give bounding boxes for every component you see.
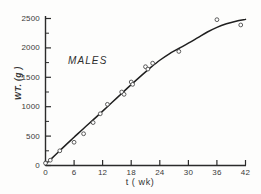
data-point [215, 18, 219, 22]
x-tick-label: 12 [93, 168, 113, 177]
data-point [48, 158, 52, 162]
y-axis-label: WT. (g ) [13, 53, 23, 113]
data-point-markers [44, 18, 243, 165]
x-tick-label: 42 [236, 168, 256, 177]
data-point [98, 112, 102, 116]
data-point [44, 161, 48, 165]
data-point [91, 121, 95, 125]
data-point [58, 149, 62, 153]
x-tick-label: 6 [64, 168, 84, 177]
y-tick-label: 500 [6, 132, 40, 141]
y-tick-label: 1000 [6, 102, 40, 111]
x-tick-label: 36 [207, 168, 227, 177]
y-tick-label: 1500 [6, 73, 40, 82]
x-axis-label: t ( wk) [100, 177, 180, 187]
data-point [72, 140, 76, 144]
data-point [106, 102, 110, 106]
data-point [82, 132, 86, 136]
x-tick-label: 0 [36, 168, 56, 177]
x-tick-label: 18 [121, 168, 141, 177]
data-point [177, 50, 181, 54]
growth-curve-chart: 0 500 1000 1500 2000 2500 0 6 12 18 24 3… [0, 0, 261, 194]
x-major-ticks [46, 160, 246, 166]
data-point [151, 61, 155, 65]
y-tick-label: 2500 [6, 14, 40, 23]
data-point [239, 23, 243, 27]
data-point [146, 67, 150, 71]
y-tick-label: 2000 [6, 43, 40, 52]
series-annotation-males: MALES [68, 55, 107, 66]
x-tick-label: 24 [150, 168, 170, 177]
data-point [131, 82, 135, 86]
data-point [122, 92, 126, 96]
x-tick-label: 30 [178, 168, 198, 177]
